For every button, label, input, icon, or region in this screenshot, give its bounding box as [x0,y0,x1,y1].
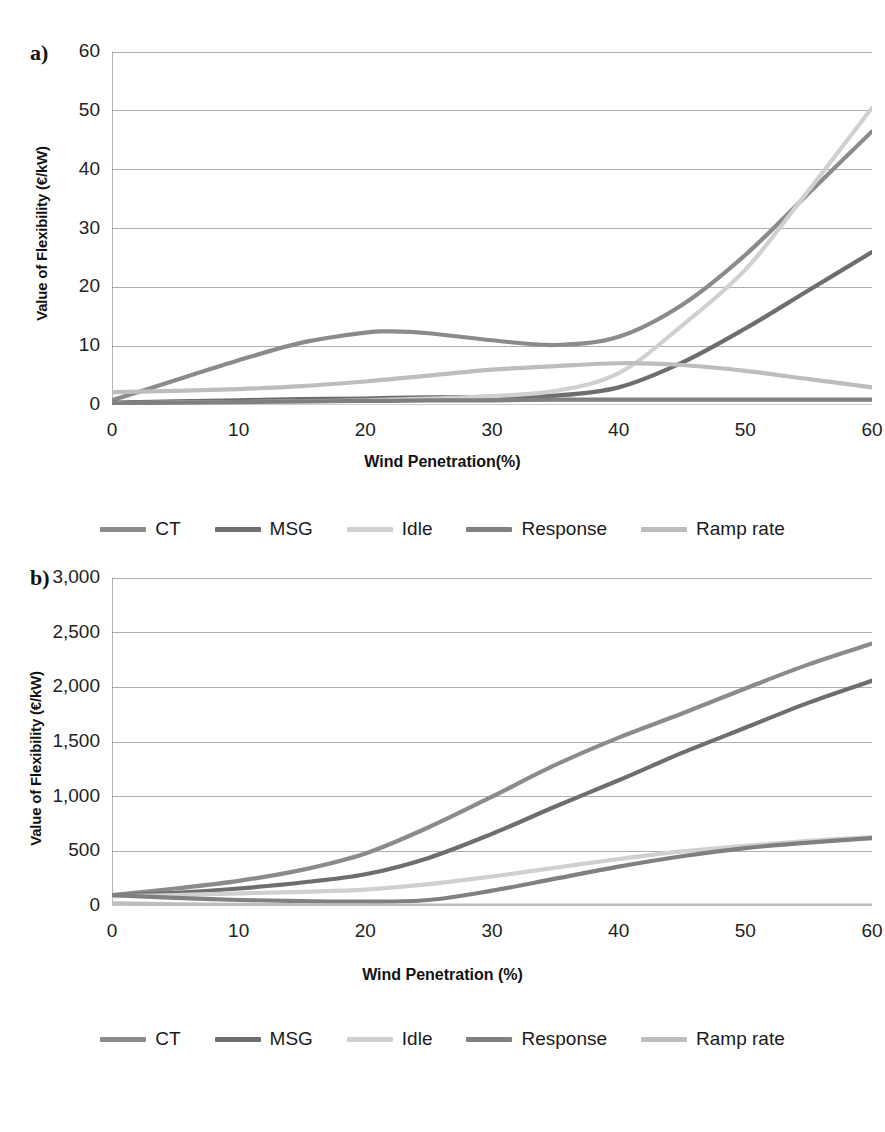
panel-a-legend: CTMSGIdleResponseRamp rate [0,518,885,540]
legend-swatch-icon [347,527,393,532]
y-tick-label: 10 [20,334,100,356]
legend-swatch-icon [100,527,146,532]
x-tick-label: 30 [462,920,522,942]
panel-b-plot [112,578,872,906]
panel-b-x-axis-label: Wind Penetration (%) [0,966,885,984]
legend-item-idle[interactable]: Idle [347,518,433,540]
legend-swatch-icon [466,527,512,532]
x-tick-label: 40 [589,920,649,942]
legend-label: CT [155,518,180,540]
legend-label: CT [155,1028,180,1050]
x-tick-label: 0 [82,419,142,441]
y-tick-label: 30 [20,217,100,239]
y-tick-label: 0 [20,393,100,415]
legend-label: Idle [402,1028,433,1050]
legend-item-msg[interactable]: MSG [215,1028,313,1050]
y-tick-label: 2,000 [20,675,100,697]
x-tick-label: 20 [335,419,395,441]
x-tick-label: 60 [842,419,885,441]
legend-item-response[interactable]: Response [466,1028,607,1050]
legend-item-ct[interactable]: CT [100,518,180,540]
chart-panel-a: a) Value of Flexibility (€/kW) 010203040… [0,0,885,560]
legend-label: MSG [270,1028,313,1050]
legend-swatch-icon [215,527,261,532]
legend-swatch-icon [641,1037,687,1042]
legend-item-ramp-rate[interactable]: Ramp rate [641,518,785,540]
y-tick-label: 2,500 [20,621,100,643]
panel-a-x-axis-label: Wind Penetration(%) [0,453,885,471]
y-tick-label: 0 [20,894,100,916]
legend-label: Idle [402,518,433,540]
x-tick-label: 50 [715,419,775,441]
x-tick-label: 50 [715,920,775,942]
y-tick-label: 1,000 [20,785,100,807]
legend-label: Response [521,518,607,540]
legend-label: Ramp rate [696,1028,785,1050]
x-tick-label: 40 [589,419,649,441]
legend-swatch-icon [215,1037,261,1042]
y-tick-label: 20 [20,275,100,297]
legend-label: MSG [270,518,313,540]
figure-container: a) Value of Flexibility (€/kW) 010203040… [0,0,885,1132]
x-tick-label: 30 [462,419,522,441]
legend-item-response[interactable]: Response [466,518,607,540]
x-tick-label: 10 [209,920,269,942]
y-tick-label: 60 [20,40,100,62]
legend-item-idle[interactable]: Idle [347,1028,433,1050]
legend-item-ramp-rate[interactable]: Ramp rate [641,1028,785,1050]
x-tick-label: 0 [82,920,142,942]
legend-swatch-icon [100,1037,146,1042]
legend-swatch-icon [347,1037,393,1042]
legend-label: Response [521,1028,607,1050]
legend-swatch-icon [641,527,687,532]
panel-b-legend: CTMSGIdleResponseRamp rate [0,1028,885,1050]
legend-label: Ramp rate [696,518,785,540]
y-tick-label: 500 [20,839,100,861]
legend-item-ct[interactable]: CT [100,1028,180,1050]
x-tick-label: 10 [209,419,269,441]
legend-swatch-icon [466,1037,512,1042]
y-tick-label: 3,000 [20,566,100,588]
y-tick-label: 50 [20,99,100,121]
x-tick-label: 20 [335,920,395,942]
y-tick-label: 1,500 [20,730,100,752]
chart-panel-b: b) Value of Flexibility (€/kW) 05001,000… [0,560,885,1100]
x-tick-label: 60 [842,920,885,942]
y-tick-label: 40 [20,158,100,180]
panel-a-plot [112,52,872,405]
legend-item-msg[interactable]: MSG [215,518,313,540]
